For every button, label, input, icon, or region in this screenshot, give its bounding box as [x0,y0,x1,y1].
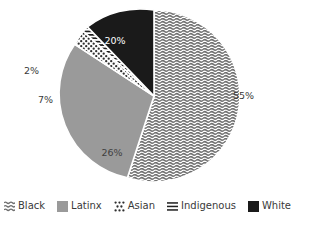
legend-label-indigenous: Indigenous [181,201,236,211]
pie-label-latinx: 26% [101,147,122,158]
legend-label-black: Black [18,201,45,211]
pie-chart: 55% 26% 7% 2% 20% [0,0,309,192]
pie-label-indigenous: 2% [24,65,39,76]
legend-item-latinx[interactable]: Latinx [57,201,102,212]
chart-legend: Black Latinx Asian Indigenous [0,196,309,216]
cut-off-footer-text [6,219,206,228]
legend-label-white: White [262,201,291,211]
dotted-crosshatch-swatch-icon [114,201,125,212]
solid-gray-swatch-icon [57,201,68,212]
legend-label-asian: Asian [128,201,155,211]
pie-label-white: 20% [104,35,125,46]
solid-black-swatch-icon [248,201,259,212]
wavy-checker-swatch-icon [4,201,15,212]
legend-label-latinx: Latinx [71,201,102,211]
pie-chart-svg: 55% 26% 7% 2% 20% [0,0,309,192]
pie-label-black: 55% [233,90,254,101]
legend-item-black[interactable]: Black [4,201,45,212]
legend-item-white[interactable]: White [248,201,291,212]
legend-item-asian[interactable]: Asian [114,201,155,212]
pie-label-asian: 7% [38,94,53,105]
legend-item-indigenous[interactable]: Indigenous [167,201,236,212]
horizontal-lines-swatch-icon [167,201,178,212]
